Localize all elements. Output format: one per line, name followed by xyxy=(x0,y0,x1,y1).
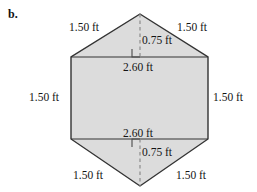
dimension-label-bottom-height: 0.75 ft xyxy=(142,146,172,158)
dimension-label-right-side: 1.50 ft xyxy=(213,91,243,103)
dimension-label-bottom-right-side: 1.50 ft xyxy=(176,169,206,181)
dimension-label-bottom-base: 2.60 ft xyxy=(123,127,153,139)
hexagon-figure: b. 1.50 ft 1.50 ft 1.50 ft 1.50 ft 1.50 … xyxy=(0,0,257,192)
dimension-label-top-height: 0.75 ft xyxy=(142,34,172,46)
part-label: b. xyxy=(8,8,18,20)
dimension-label-left-side: 1.50 ft xyxy=(29,91,59,103)
dimension-label-top-base: 2.60 ft xyxy=(123,61,153,73)
dimension-label-top-left-side: 1.50 ft xyxy=(69,21,99,33)
dimension-label-top-right-side: 1.50 ft xyxy=(177,21,207,33)
dimension-label-bottom-left-side: 1.50 ft xyxy=(73,169,103,181)
